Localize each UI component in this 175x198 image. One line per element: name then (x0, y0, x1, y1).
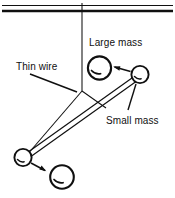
large-mass-upper-left (88, 56, 111, 79)
ceiling-support-bar (2, 6, 173, 12)
small-mass-upper-right (131, 66, 148, 83)
large-mass-lower-circle (50, 165, 74, 189)
large-mass-lower-right (50, 165, 74, 189)
thin-wire-leader-line (30, 74, 77, 92)
wire-fork-left-leg (27, 91, 83, 156)
physics-diagram-figure: Large mass Thin wire Small mass (0, 0, 175, 198)
small-mass-upper-circle (131, 66, 148, 83)
large-mass-label: Large mass (89, 37, 142, 48)
attraction-arrow-upper-head (113, 66, 120, 71)
thin-wire-label: Thin wire (16, 61, 58, 72)
small-mass-lower-circle (14, 149, 31, 166)
small-mass-lower-left (14, 149, 31, 166)
attraction-arrow-lower (31, 163, 46, 171)
small-mass-leader-line (128, 84, 136, 110)
attraction-arrow-lower-head (39, 166, 46, 172)
diagram-canvas: Large mass Thin wire Small mass (0, 0, 175, 198)
small-mass-label: Small mass (106, 115, 159, 126)
attraction-arrow-upper (113, 66, 130, 71)
large-mass-upper-circle (88, 56, 111, 79)
